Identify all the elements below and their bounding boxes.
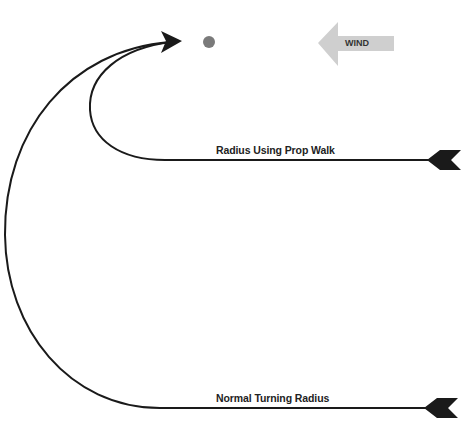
prop-walk-path xyxy=(90,42,440,160)
target-dot-icon xyxy=(203,36,215,48)
normal-radius-label: Normal Turning Radius xyxy=(216,392,329,404)
diagram-canvas xyxy=(0,0,476,435)
normal-turn-path xyxy=(5,42,440,408)
arrow-tail-fletching-icon xyxy=(424,398,458,418)
arrow-tail-fletching-icon xyxy=(427,150,461,170)
prop-walk-label: Radius Using Prop Walk xyxy=(216,144,335,156)
wind-label: WIND xyxy=(345,38,369,48)
